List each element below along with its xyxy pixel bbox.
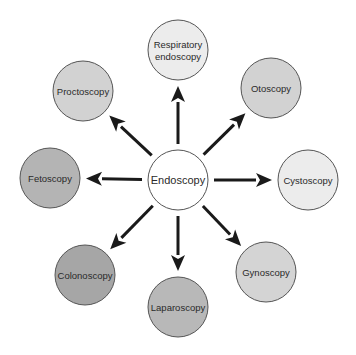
node-label: Gynoscopy (242, 267, 290, 278)
node-label: Fetoscopy (28, 173, 72, 184)
node-gynoscopy: Gynoscopy (236, 242, 296, 302)
node-colonoscopy: Colonoscopy (55, 245, 115, 305)
arrow-to-respiratory (171, 86, 185, 144)
node-label: endoscopy (155, 51, 201, 62)
center-label: Endoscopy (151, 174, 206, 186)
endoscopy-diagram: RespiratoryendoscopyOtoscopyCystoscopyGy… (0, 0, 356, 355)
arrow-head (171, 86, 185, 102)
arrow-to-gynoscopy (203, 206, 241, 246)
arrow-head (256, 173, 272, 187)
node-laparoscopy: Laparoscopy (148, 277, 208, 337)
node-respiratory: Respiratoryendoscopy (148, 20, 208, 80)
arrow-to-proctoscopy (109, 116, 151, 156)
arrow-shaft (121, 206, 152, 238)
node-label: Colonoscopy (58, 270, 113, 281)
arrow-to-fetoscopy (86, 172, 142, 186)
node-label: Respiratory (154, 39, 203, 50)
node-label: Proctoscopy (57, 86, 110, 97)
arrow-shaft (203, 206, 230, 234)
node-cystoscopy: Cystoscopy (278, 150, 338, 210)
arrow-to-laparoscopy (171, 216, 185, 271)
center-node: Endoscopy (148, 150, 208, 210)
node-label: Cystoscopy (283, 175, 332, 186)
arrow-to-cystoscopy (214, 173, 272, 187)
node-fetoscopy: Fetoscopy (20, 148, 80, 208)
node-label: Laparoscopy (151, 302, 206, 313)
arrow-shaft (121, 127, 152, 156)
arrow-to-colonoscopy (110, 206, 153, 250)
node-label: Otoscopy (251, 83, 291, 94)
node-proctoscopy: Proctoscopy (53, 61, 113, 121)
arrow-shaft (102, 179, 142, 180)
arrow-head (86, 172, 102, 186)
arrow-head (171, 255, 185, 271)
node-otoscopy: Otoscopy (241, 58, 301, 118)
arrow-to-otoscopy (204, 113, 246, 154)
arrow-shaft (204, 125, 234, 155)
